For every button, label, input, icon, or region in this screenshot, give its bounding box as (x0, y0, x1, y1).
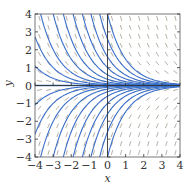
y-tick-label: −4 (16, 151, 32, 164)
slope-segment (156, 52, 158, 56)
slope-segment (111, 150, 112, 155)
slope-segment (146, 71, 150, 74)
slope-segment (65, 61, 68, 65)
slope-segment (120, 43, 122, 48)
slope-segment (129, 141, 130, 146)
slope-segment (138, 132, 140, 137)
slope-segment (38, 61, 41, 65)
slope-segment (120, 25, 121, 30)
slope-segment (48, 141, 49, 146)
slope-segment (48, 25, 49, 30)
slope-segment (173, 71, 177, 74)
slope-segment (38, 115, 40, 119)
x-tick-label: −2 (63, 159, 79, 172)
slope-segment (57, 34, 59, 39)
y-axis-label: y (2, 80, 15, 88)
y-tick-label: −3 (16, 133, 32, 146)
slope-segment (56, 106, 59, 110)
slope-segment (75, 150, 76, 155)
slope-segment (157, 16, 158, 21)
slope-segment (174, 61, 177, 65)
slope-segment (102, 150, 103, 155)
slope-segment (138, 123, 140, 128)
slope-field-chart: −4−3−2−101234−4−3−2−101234 x y (0, 0, 188, 190)
slope-segment (120, 141, 121, 146)
slope-segment (75, 34, 77, 39)
slope-segment (148, 150, 149, 155)
slope-segment (57, 132, 59, 137)
slope-segment (111, 115, 113, 119)
slope-segment (39, 150, 40, 155)
slope-segment (39, 132, 41, 137)
slope-segment (39, 25, 40, 30)
slope-segment (129, 43, 131, 48)
slope-segment (175, 141, 176, 146)
slope-segment (166, 16, 167, 21)
slope-segment (165, 43, 167, 48)
slope-segment (165, 61, 168, 65)
slope-segment (46, 89, 51, 90)
slope-segment (57, 16, 58, 21)
axes (35, 14, 180, 157)
slope-segment (129, 25, 130, 30)
slope-segment (155, 97, 159, 100)
slope-segment (138, 141, 139, 146)
slope-segment (75, 52, 77, 56)
slope-segment (66, 132, 68, 137)
slope-segment (148, 141, 149, 146)
slope-segment (138, 106, 141, 110)
slope-segment (102, 52, 104, 56)
slope-segment (120, 150, 121, 155)
slope-segment (47, 71, 51, 74)
slope-segment (130, 150, 131, 155)
slope-segment (174, 52, 176, 56)
slope-segment (74, 71, 78, 74)
x-axis-label: x (104, 172, 111, 185)
slope-segment (147, 115, 149, 119)
slope-segment (65, 71, 69, 74)
slope-segment (75, 16, 76, 21)
slope-segment (156, 106, 159, 110)
slope-segment (157, 25, 158, 30)
slope-segment (84, 132, 86, 137)
slope-segment (166, 34, 168, 39)
slope-segment (130, 16, 131, 21)
slope-segment (147, 132, 149, 137)
slope-segment (147, 34, 149, 39)
slope-segment (146, 97, 150, 100)
slope-segment (165, 52, 167, 56)
slope-segment (175, 25, 176, 30)
slope-segment (102, 115, 104, 119)
slope-segment (93, 52, 95, 56)
slope-segment (164, 97, 168, 100)
slope-segment (111, 16, 112, 21)
slope-segment (111, 132, 113, 137)
slope-segment (147, 106, 150, 110)
slope-segment (156, 132, 158, 137)
slope-segment (66, 16, 67, 21)
slope-segment (57, 43, 59, 48)
slope-segment (138, 61, 141, 65)
slope-segment (147, 61, 150, 65)
slope-segment (39, 34, 41, 39)
slope-segment (65, 97, 69, 100)
slope-segment (173, 89, 178, 90)
slope-segment (166, 150, 167, 155)
slope-segment (37, 80, 42, 81)
slope-segment (84, 52, 86, 56)
slope-segment (84, 115, 86, 119)
x-tick-label: 3 (158, 159, 165, 172)
slope-segment (66, 43, 68, 48)
slope-segment (175, 16, 176, 21)
slope-segment (166, 132, 168, 137)
slope-segment (48, 123, 50, 128)
slope-segment (120, 123, 122, 128)
slope-segment (156, 43, 158, 48)
y-tick-label: −1 (16, 97, 32, 110)
slope-segment (138, 43, 140, 48)
slope-segment (38, 52, 40, 56)
slope-segment (138, 52, 140, 56)
slope-segment (82, 80, 87, 81)
slope-segment (157, 141, 158, 146)
slope-segment (93, 132, 95, 137)
